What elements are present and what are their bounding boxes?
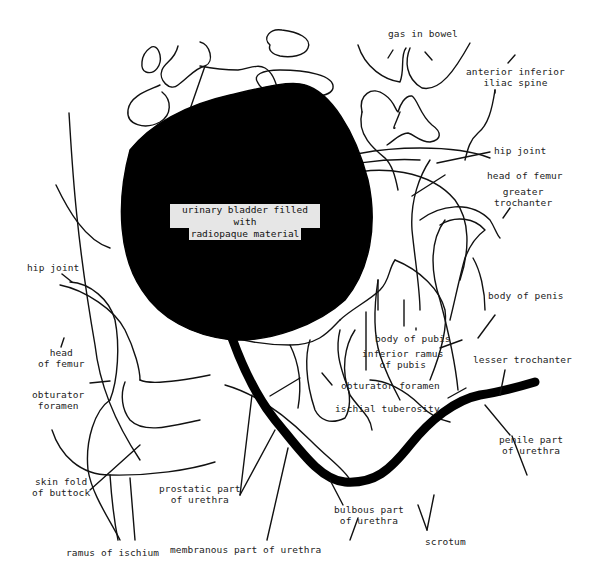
label-head-of-femur-right: head of femur [487,170,563,181]
label-gas-in-bowel: gas in bowel [388,28,458,39]
label-scrotum: scrotum [425,536,466,547]
label-anterior-inferior-iliac-spine: anterior inferior iliac spine [466,66,565,88]
label-obturator-foramen-center: obturator foramen [341,380,440,391]
label-bulbous-part-of-urethra: bulbous part of urethra [334,504,404,526]
label-skin-fold-of-buttock: skin fold of buttock [32,476,90,498]
label-hip-joint-left: hip joint [27,262,79,273]
label-hip-joint-right: hip joint [494,145,546,156]
label-membranous-part-of-urethra: membranous part of urethra [170,544,321,555]
label-head-of-femur-left: head of femur [38,347,85,369]
label-inferior-ramus-of-pubis: inferior ramus of pubis [362,348,443,370]
urinary-bladder-label: urinary bladder filled with radiopaque m… [170,204,320,240]
label-prostatic-part-of-urethra: prostatic part of urethra [159,483,240,505]
urinary-bladder-label-line1: urinary bladder filled with [170,204,320,228]
label-penile-part-of-urethra: penile part of urethra [499,434,563,456]
label-obturator-foramen-left: obturator foramen [32,389,84,411]
label-greater-trochanter: greater trochanter [494,186,552,208]
label-ramus-of-ischium: ramus of ischium [66,547,159,558]
label-body-of-pubis: body of pubis [375,333,451,344]
label-body-of-penis: body of penis [488,290,564,301]
label-ischial-tuberosity: ischial tuberosity [335,403,440,414]
label-lesser-trochanter: lesser trochanter [473,354,572,365]
urinary-bladder-label-line2: radiopaque material [189,228,302,240]
